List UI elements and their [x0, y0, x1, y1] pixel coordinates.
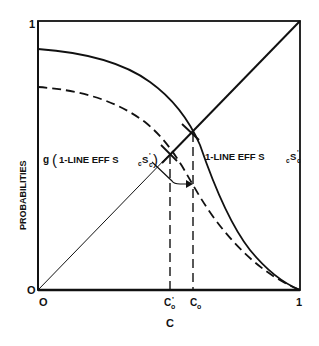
dashed-label-text: 1-LINE EFF S [59, 154, 119, 165]
dashed-curve [38, 87, 300, 290]
probability-chart: 1 O O 1 C ' o C o C PROBABILITIES 1-LINE… [0, 0, 319, 346]
solid-label-text: 1-LINE EFF S [205, 151, 265, 162]
x-tick-co: C o [190, 297, 201, 310]
diagonal-line-upper [162, 21, 300, 163]
y-tick-one: 1 [29, 18, 35, 30]
solid-label-sub2: c [297, 157, 301, 164]
arrowhead-icon [186, 180, 193, 188]
diagonal-line-lower [38, 152, 172, 290]
solid-label-mid: S [290, 151, 296, 162]
dashed-label-close-paren: ) [153, 151, 158, 168]
solid-curve [38, 49, 300, 290]
x-tick-one: 1 [296, 296, 302, 308]
dashed-curve-label: g ( 1-LINE EFF S c S ' c ) [43, 151, 158, 168]
solid-label-sup: ' [297, 149, 299, 156]
dashed-label-open-paren: ( [52, 151, 57, 168]
co-sub: o [197, 303, 201, 310]
dashed-label-sup: ' [149, 152, 151, 159]
x-tick-co-prime: C ' o [164, 295, 175, 310]
cross-mark-co-prime [161, 145, 177, 161]
co-prime-sub: o [171, 303, 175, 310]
dashed-label-mid: S [142, 154, 148, 165]
x-axis-label: C [166, 317, 174, 329]
dashed-label-g: g [43, 154, 49, 165]
y-tick-zero: O [27, 284, 36, 296]
x-tick-zero: O [39, 296, 48, 308]
y-axis-label: PROBABILITIES [18, 160, 28, 230]
solid-curve-label: 1-LINE EFF S c S ' c [205, 149, 301, 164]
